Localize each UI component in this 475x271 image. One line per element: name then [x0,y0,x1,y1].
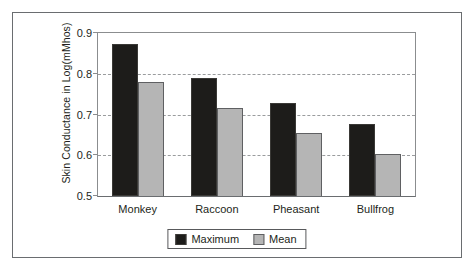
bar-bullfrog-mean[interactable] [375,154,401,196]
bar-raccoon-maximum[interactable] [191,78,217,196]
bar-bullfrog-maximum[interactable] [349,124,375,196]
y-axis-tick-mark [93,195,98,196]
bar-pheasant-maximum[interactable] [270,103,296,196]
chart-legend: Maximum Mean [167,229,306,249]
bar-group [349,33,401,196]
bar-group [191,33,243,196]
y-axis-tick-label: 0.9 [77,27,92,39]
x-axis-label-raccoon: Raccoon [195,203,238,215]
bar-raccoon-mean[interactable] [217,108,243,196]
x-axis-label-pheasant: Pheasant [273,203,319,215]
y-axis-title: Skin Conductance in Log(mMhos) [60,3,72,203]
legend-entry-maximum[interactable]: Maximum [175,233,239,245]
plot-area: 0.50.60.70.80.9 MonkeyRaccoonPheasantBul… [97,32,416,197]
y-axis-tick-label: 0.7 [77,109,92,121]
x-axis-label-monkey: Monkey [118,203,157,215]
bar-pheasant-mean[interactable] [296,133,322,196]
y-axis-tick-label: 0.5 [77,190,92,202]
y-axis-tick-mark [93,114,98,115]
bar-monkey-maximum[interactable] [112,44,138,196]
legend-swatch-maximum-icon [175,234,186,245]
y-axis-tick-mark [93,73,98,74]
legend-label-maximum: Maximum [191,233,239,245]
y-axis-tick-mark [93,32,98,33]
x-axis-label-bullfrog: Bullfrog [357,203,394,215]
legend-swatch-mean-icon [253,234,264,245]
legend-entry-mean[interactable]: Mean [253,233,297,245]
y-axis-tick-mark [93,154,98,155]
bar-group [112,33,164,196]
legend-label-mean: Mean [269,233,297,245]
y-axis-tick-label: 0.8 [77,68,92,80]
bar-group [270,33,322,196]
bar-monkey-mean[interactable] [138,82,164,197]
chart-figure-frame: Skin Conductance in Log(mMhos) 0.50.60.7… [12,12,462,258]
y-axis-tick-label: 0.6 [77,149,92,161]
